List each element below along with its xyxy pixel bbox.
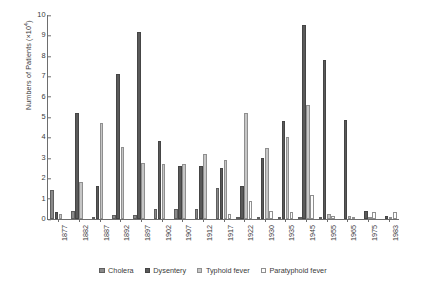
- bar-typhoid-fever-1902: [162, 164, 166, 219]
- x-axis-label-1975: 1975: [371, 225, 378, 241]
- bar-dysentery-1902: [158, 141, 162, 219]
- bar-cholera-1922: [236, 217, 240, 219]
- x-axis-label-1917: 1917: [227, 225, 234, 241]
- bar-dysentery-1955: [323, 60, 327, 219]
- bar-cholera-1955: [319, 217, 323, 219]
- chart-legend: CholeraDysenteryTyphoid feverParatyphoid…: [0, 266, 426, 275]
- bar-dysentery-1922: [240, 186, 244, 219]
- bar-dysentery-1882: [75, 113, 79, 219]
- bar-group-1897: [133, 15, 149, 219]
- bar-dysentery-1897: [137, 32, 141, 219]
- y-axis-tick-label: 7: [41, 72, 48, 79]
- bar-group-1877: [50, 15, 66, 219]
- bar-group-1955: [319, 15, 335, 219]
- bar-dysentery-1975: [364, 211, 368, 219]
- y-axis-tick-label: 9: [41, 32, 48, 39]
- bar-cholera-1887: [92, 217, 96, 219]
- legend-item-paratyphoid-fever[interactable]: Paratyphoid fever: [261, 266, 327, 275]
- bar-dysentery-1887: [96, 186, 100, 219]
- x-axis-label-1902: 1902: [165, 225, 172, 241]
- legend-swatch-icon: [99, 268, 104, 273]
- legend-item-typhoid-fever[interactable]: Typhoid fever: [197, 266, 250, 275]
- y-axis-tick-1: 1: [41, 195, 48, 202]
- y-axis-tick-label: 3: [41, 154, 48, 161]
- legend-label: Dysentery: [153, 266, 186, 275]
- x-axis-tick-mark-1983: [389, 219, 390, 222]
- bar-dysentery-1945: [302, 25, 306, 219]
- y-axis-tick-label: 5: [41, 113, 48, 120]
- x-axis-tick-mark-1897: [141, 219, 142, 222]
- legend-label: Paratyphoid fever: [269, 266, 326, 275]
- bar-paratyphoid-fever-1922: [249, 201, 253, 219]
- x-axis-label-1897: 1897: [144, 225, 151, 241]
- bar-paratyphoid-fever-1930: [269, 211, 273, 219]
- bar-group-1930: [257, 15, 273, 219]
- bar-dysentery-1965: [344, 120, 348, 219]
- x-axis-tick-mark-1917: [224, 219, 225, 222]
- bar-dysentery-1892: [116, 74, 120, 219]
- x-axis-label-1882: 1882: [82, 225, 89, 241]
- bar-typhoid-fever-1955: [327, 214, 331, 219]
- bar-cholera-1882: [71, 211, 75, 219]
- x-axis-label-1912: 1912: [206, 225, 213, 241]
- y-axis-tick-label: 0: [41, 215, 48, 222]
- x-axis-tick-mark-1882: [79, 219, 80, 222]
- x-axis-tick-mark-1887: [100, 219, 101, 222]
- y-axis-tick-mark: [48, 219, 51, 220]
- bar-paratyphoid-fever-1965: [352, 217, 356, 219]
- bar-group-1965: [339, 15, 355, 219]
- bar-paratyphoid-fever-1955: [331, 216, 335, 219]
- bar-typhoid-fever-1975: [368, 217, 372, 219]
- y-axis-tick-0: 0: [41, 215, 48, 222]
- bar-paratyphoid-fever-1983: [393, 212, 397, 219]
- legend-swatch-icon: [261, 268, 266, 273]
- bar-cholera-1877: [50, 190, 54, 219]
- bar-paratyphoid-fever-1975: [372, 212, 376, 219]
- bar-typhoid-fever-1917: [224, 160, 228, 219]
- x-axis-label-1887: 1887: [103, 225, 110, 241]
- y-axis-tick-9: 9: [41, 32, 48, 39]
- bar-dysentery-1877: [55, 212, 59, 219]
- bar-typhoid-fever-1965: [348, 216, 352, 219]
- x-axis-tick-mark-1955: [327, 219, 328, 222]
- bar-group-1945: [298, 15, 314, 219]
- bar-group-1983: [381, 15, 397, 219]
- bar-cholera-1945: [298, 217, 302, 219]
- x-axis-tick-mark-1902: [162, 219, 163, 222]
- bar-dysentery-1907: [178, 166, 182, 219]
- x-axis-label-1930: 1930: [268, 225, 275, 241]
- bar-cholera-1917: [216, 188, 220, 219]
- y-axis-title: Numbers of Patients (×104): [23, 0, 33, 145]
- y-axis-tick-8: 8: [41, 52, 48, 59]
- bar-group-1975: [360, 15, 376, 219]
- bar-dysentery-1912: [199, 166, 203, 219]
- bar-typhoid-fever-1892: [121, 147, 125, 219]
- y-axis-tick-2: 2: [41, 174, 48, 181]
- legend-item-dysentery[interactable]: Dysentery: [145, 266, 187, 275]
- bar-cholera-1892: [112, 215, 116, 219]
- y-axis-tick-label: 10: [37, 11, 48, 18]
- plot-area: 012345678910 187718821887189218971902190…: [47, 15, 399, 220]
- bar-typhoid-fever-1887: [100, 123, 104, 219]
- bar-typhoid-fever-1945: [306, 105, 310, 219]
- bar-dysentery-1983: [385, 216, 389, 219]
- bar-paratyphoid-fever-1917: [228, 214, 232, 219]
- bar-typhoid-fever-1930: [265, 148, 269, 219]
- bar-typhoid-fever-1882: [79, 182, 83, 219]
- bar-group-1922: [236, 15, 252, 219]
- legend-item-cholera[interactable]: Cholera: [99, 266, 133, 275]
- legend-label: Typhoid fever: [206, 266, 250, 275]
- y-axis-title-exponent-base: ×10: [24, 26, 33, 39]
- x-axis-tick-mark-1930: [265, 219, 266, 222]
- bar-paratyphoid-fever-1935: [290, 212, 294, 219]
- y-axis-tick-label: 8: [41, 52, 48, 59]
- x-axis-label-1983: 1983: [392, 225, 399, 241]
- y-axis-tick-7: 7: [41, 72, 48, 79]
- bar-typhoid-fever-1912: [203, 154, 207, 219]
- y-axis-tick-label: 1: [41, 195, 48, 202]
- bar-cholera-1902: [154, 209, 158, 219]
- bar-typhoid-fever-1935: [286, 137, 290, 219]
- bar-dysentery-1917: [220, 168, 224, 219]
- x-axis-tick-mark-1935: [285, 219, 286, 222]
- y-axis-tick-10: 10: [37, 11, 48, 18]
